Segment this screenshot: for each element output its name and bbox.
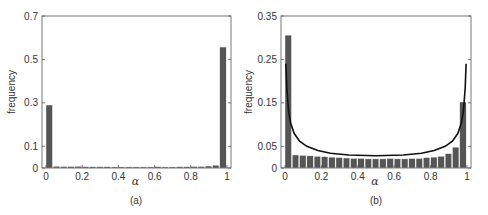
x-tick-label: 0.4 bbox=[351, 171, 365, 182]
x-axis-label: α bbox=[132, 175, 140, 188]
histogram-bar bbox=[452, 147, 458, 168]
histogram-bar bbox=[365, 159, 371, 168]
x-tick-label: 0.2 bbox=[75, 171, 89, 182]
x-tick-label: 1 bbox=[464, 171, 470, 182]
y-tick-label: 0 bbox=[271, 163, 277, 174]
histogram-bar bbox=[445, 154, 451, 168]
x-tick-label: 0.4 bbox=[111, 171, 125, 182]
y-tick-label: 0.35 bbox=[258, 11, 278, 22]
histogram-bar bbox=[416, 158, 422, 168]
y-tick-label: 0.5 bbox=[24, 54, 38, 65]
y-axis-label: frequency bbox=[6, 70, 17, 114]
y-tick-label: 0 bbox=[32, 163, 38, 174]
histogram-bar bbox=[307, 156, 313, 168]
y-tick-label: 0.3 bbox=[24, 97, 38, 108]
y-axis-label: frequency bbox=[243, 70, 254, 114]
histogram-bar bbox=[438, 156, 444, 168]
histogram-bar bbox=[220, 47, 226, 168]
histogram-bar bbox=[336, 158, 342, 168]
histogram-bar bbox=[380, 159, 386, 168]
y-tick-label: 0.05 bbox=[258, 141, 278, 152]
plot-frame bbox=[42, 16, 231, 168]
x-tick-label: 0 bbox=[282, 171, 288, 182]
histogram-bar bbox=[321, 157, 327, 168]
histogram-bar bbox=[343, 158, 349, 168]
x-tick-label: 1 bbox=[224, 171, 230, 182]
x-tick-label: 0.8 bbox=[184, 171, 198, 182]
histogram-bar bbox=[394, 159, 400, 168]
histogram-bar bbox=[351, 158, 357, 168]
y-tick-label: 0.1 bbox=[24, 141, 38, 152]
chart-panel-b: 00.050.150.250.3500.20.40.60.81αfrequenc… bbox=[243, 11, 471, 207]
histogram-bar bbox=[46, 105, 52, 168]
histogram-bar bbox=[300, 155, 306, 168]
x-tick-label: 0.6 bbox=[148, 171, 162, 182]
fitted-curve bbox=[286, 64, 466, 156]
y-tick-label: 0.7 bbox=[24, 11, 38, 22]
x-tick-label: 0.2 bbox=[314, 171, 328, 182]
y-tick-label: 0.25 bbox=[258, 54, 278, 65]
panel-caption: (a) bbox=[130, 195, 142, 206]
histogram-bar bbox=[358, 158, 364, 168]
x-axis-label: α bbox=[371, 175, 379, 188]
y-tick-label: 0.15 bbox=[258, 97, 278, 108]
figure: 00.10.30.50.700.20.40.60.81αfrequency(a)… bbox=[0, 0, 488, 215]
x-tick-label: 0.6 bbox=[387, 171, 401, 182]
plot-frame bbox=[281, 16, 471, 168]
histogram-bar bbox=[423, 158, 429, 168]
histogram-bar bbox=[213, 165, 219, 168]
x-tick-label: 0 bbox=[43, 171, 49, 182]
histogram-bar bbox=[314, 156, 320, 168]
histogram-bar bbox=[292, 155, 298, 168]
histogram-bar bbox=[387, 158, 393, 168]
histogram-bar bbox=[409, 158, 415, 168]
histogram-bar bbox=[431, 157, 437, 168]
histogram-bar bbox=[372, 159, 378, 168]
panel-caption: (b) bbox=[370, 195, 382, 206]
histogram-bar bbox=[401, 159, 407, 168]
x-tick-label: 0.8 bbox=[424, 171, 438, 182]
histogram-bar bbox=[329, 157, 335, 168]
chart-panel-a: 00.10.30.50.700.20.40.60.81αfrequency(a) bbox=[6, 11, 231, 207]
